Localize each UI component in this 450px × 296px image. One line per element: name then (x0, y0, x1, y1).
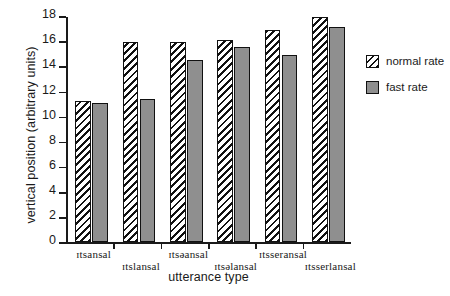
x-tick-label-1: ɪtsansal (58, 248, 129, 260)
y-tick-8: 8 (59, 142, 66, 144)
bar-normal-rate-6 (312, 17, 328, 242)
y-tick-16: 16 (59, 41, 66, 43)
y-tick-12: 12 (59, 92, 66, 94)
y-axis-title: vertical position (arbitrary units) (24, 20, 38, 250)
bar-chart-figure: vertical position (arbitrary units) 0246… (0, 0, 450, 296)
bar-fast-rate-5 (282, 55, 298, 242)
y-tick-10: 10 (59, 117, 66, 119)
y-tick-label-4: 4 (49, 183, 56, 197)
y-tick-label-18: 18 (42, 7, 56, 21)
x-tick-label-5: ɪtsseransal (247, 248, 318, 260)
legend-swatch-normal-rate (366, 55, 379, 68)
legend-swatch-fast-rate (366, 81, 379, 94)
y-tick-label-14: 14 (42, 57, 56, 71)
y-tick-6: 6 (59, 167, 66, 169)
legend-item-fast-rate: fast rate (366, 76, 450, 98)
x-axis-title: utterance type (66, 270, 351, 284)
y-tick-4: 4 (59, 192, 66, 194)
y-tick-label-6: 6 (49, 158, 56, 172)
y-tick-label-10: 10 (42, 108, 56, 122)
y-tick-label-12: 12 (42, 83, 56, 97)
y-tick-18: 18 (59, 16, 66, 18)
bar-normal-rate-1 (75, 101, 91, 242)
x-tick-label-3: ɪtsəansal (153, 248, 224, 260)
y-tick-label-0: 0 (49, 233, 56, 247)
y-axis-line (66, 17, 68, 243)
bar-fast-rate-4 (234, 47, 250, 242)
bar-normal-rate-2 (123, 42, 139, 242)
bar-fast-rate-3 (187, 60, 203, 242)
y-tick-label-8: 8 (49, 133, 56, 147)
legend-label-fast-rate: fast rate (386, 81, 428, 93)
y-tick-2: 2 (59, 217, 66, 219)
y-tick-0: 0 (59, 242, 66, 244)
legend-label-normal-rate: normal rate (386, 55, 444, 67)
y-tick-14: 14 (59, 66, 66, 68)
y-tick-label-2: 2 (49, 208, 56, 222)
plot-area: 024681012141618 ɪtsansalɪtslansalɪtsəans… (66, 17, 350, 243)
bar-normal-rate-3 (170, 42, 186, 242)
legend-item-normal-rate: normal rate (366, 50, 450, 72)
bar-normal-rate-4 (217, 40, 233, 242)
bar-fast-rate-1 (92, 103, 108, 242)
legend: normal rate fast rate (366, 50, 450, 102)
bar-fast-rate-2 (140, 99, 156, 242)
bar-normal-rate-5 (265, 30, 281, 242)
y-tick-label-16: 16 (42, 32, 56, 46)
bar-fast-rate-6 (329, 27, 345, 242)
